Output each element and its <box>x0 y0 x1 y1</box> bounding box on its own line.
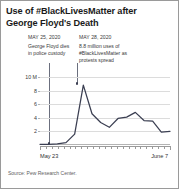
x-axis-tick <box>164 146 165 149</box>
annotation-george-floyd-death: MAY 25, 2020 George Floyd dies in police… <box>28 34 70 57</box>
x-axis-tick <box>135 146 136 149</box>
annotation-text: 8.8 million uses of #BlackLivesMatter as… <box>79 43 139 64</box>
x-axis-tick <box>52 146 53 149</box>
x-axis-tick <box>111 146 112 149</box>
annotation-date: MAY 28, 2020 <box>79 34 139 41</box>
x-axis-tick <box>152 146 153 149</box>
annotation-peak-usage: MAY 28, 2020 8.8 million uses of #BlackL… <box>79 34 139 64</box>
annotation-date: MAY 25, 2020 <box>28 34 70 41</box>
x-axis-tick <box>140 146 141 149</box>
x-axis-tick <box>58 146 59 149</box>
x-axis-tick <box>170 146 171 150</box>
x-axis-tick <box>87 146 88 149</box>
y-axis-tick-label: 10 M <box>25 74 37 80</box>
x-axis-tick <box>99 146 100 149</box>
x-axis-tick <box>64 146 65 149</box>
x-axis-tick <box>81 146 82 149</box>
x-axis-tick <box>129 146 130 149</box>
source-note: Source: Pew Research Center. <box>8 170 77 176</box>
annotation-text: George Floyd dies in police custody <box>28 43 70 57</box>
plot-area: 10 M8642 <box>40 77 170 145</box>
series-line <box>40 77 170 145</box>
x-axis-tick <box>123 146 124 149</box>
x-axis-tick <box>93 146 94 149</box>
x-axis-tick <box>117 146 118 149</box>
x-axis-tick <box>40 146 41 150</box>
x-axis-tick <box>158 146 159 149</box>
x-axis-tick <box>46 146 47 149</box>
x-axis-tick <box>70 146 71 149</box>
chart-title: Use of #BlackLivesMatter after George Fl… <box>6 5 166 29</box>
x-axis-start-label: May 23 <box>40 153 58 159</box>
chart-figure: Use of #BlackLivesMatter after George Fl… <box>0 0 179 189</box>
x-axis-tick <box>146 146 147 149</box>
x-axis-end-label: June 7 <box>151 153 168 159</box>
x-axis <box>40 146 170 150</box>
x-axis-tick <box>105 146 106 149</box>
x-axis-tick <box>75 146 76 149</box>
